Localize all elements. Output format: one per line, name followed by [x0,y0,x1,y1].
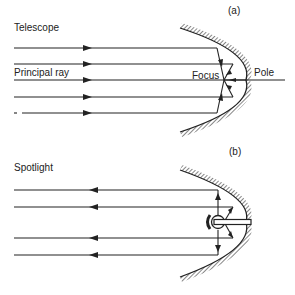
pole-label: Pole [254,68,274,78]
principal-ray-label: Principal ray [14,68,69,78]
spotlight-diagram [14,165,252,282]
focus-label: Focus [192,71,219,81]
telescope-title: Telescope [14,23,59,33]
lamp-icon [208,215,252,229]
spotlight-title: Spotlight [14,163,53,173]
panel-a-tag: (a) [228,6,240,16]
reflector-diagram [0,0,295,295]
telescope-diagram [14,23,285,137]
panel-b-tag: (b) [229,147,241,157]
